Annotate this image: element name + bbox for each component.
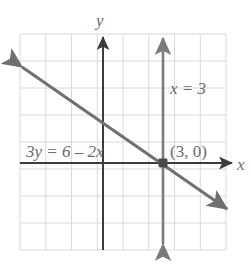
- intersection-point: [159, 159, 168, 168]
- coordinate-plane-svg: 3y = 6 – 2x x = 3 (3, 0) x y: [0, 0, 251, 264]
- point-label: (3, 0): [170, 142, 207, 161]
- y-axis-label: y: [94, 11, 104, 30]
- vertical-line-label: x = 3: [169, 79, 206, 98]
- equation-label: 3y = 6 – 2x: [25, 142, 104, 161]
- x-axis-label: x: [236, 155, 245, 174]
- graph-figure: 3y = 6 – 2x x = 3 (3, 0) x y: [0, 0, 251, 264]
